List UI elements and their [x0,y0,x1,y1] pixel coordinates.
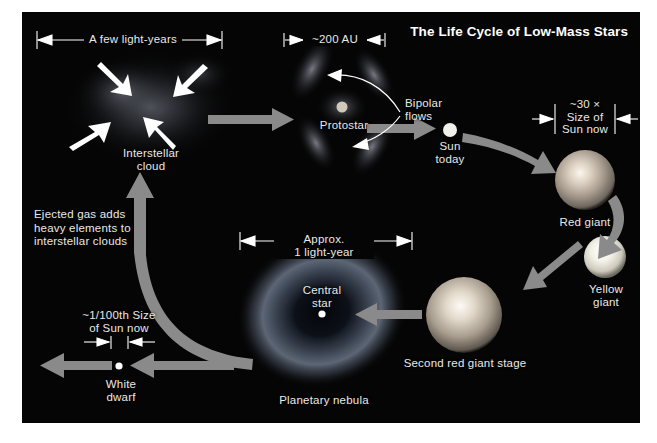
dimension-label-planetary-nebula: Approx. 1 light-year [274,233,374,259]
second-red-giant-sphere [426,277,502,353]
dimension-label-red-giant: ~30 × Size of Sun now [553,98,617,136]
dimension-label-protostar: ~200 AU [303,33,367,46]
protostar-core [337,102,348,113]
label-protostar: Protostar [312,119,376,132]
label-white-dwarf: White dwarf [92,378,150,404]
red-giant-sphere [555,150,615,210]
sun-today-dot [443,123,457,137]
label-sun-today: Sun today [424,140,476,166]
arrow-sun-to-red-giant [462,133,556,174]
note-ejected-gas: Ejected gas adds heavy elements to inter… [34,208,152,249]
arrow-white-dwarf-outflow [40,353,112,378]
dimension-label-interstellar-cloud: A few light-years [84,33,182,46]
white-dwarf-dot [115,362,122,369]
label-bipolar-flows: Bipolar flows [405,97,471,123]
diagram-panel: The Life Cycle of Low-Mass Stars [22,12,640,423]
figure-stage: The Life Cycle of Low-Mass Stars [0,0,657,443]
protostar-bipolar-flows [280,29,403,183]
label-yellow-giant: Yellow giant [578,283,634,309]
arrow-yellow-giant-to-second-red-giant [523,241,583,290]
dimension-label-white-dwarf: ~1/100th Size of Sun now [63,309,175,335]
label-interstellar-cloud: Interstellar cloud [112,147,190,173]
label-red-giant: Red giant [551,216,619,229]
label-second-red-giant: Second red giant stage [390,357,540,370]
central-star-dot [318,310,325,317]
dimension-white-dwarf [84,336,155,349]
arrow-recycle-to-cloud [126,172,253,370]
label-planetary-nebula: Planetary nebula [265,394,383,407]
label-central-star: Central star [290,284,354,310]
